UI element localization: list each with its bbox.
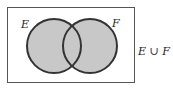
set-f-label: F bbox=[111, 17, 120, 30]
diagram-caption: E ∪ F bbox=[138, 45, 170, 58]
set-e-label: E bbox=[20, 18, 29, 31]
